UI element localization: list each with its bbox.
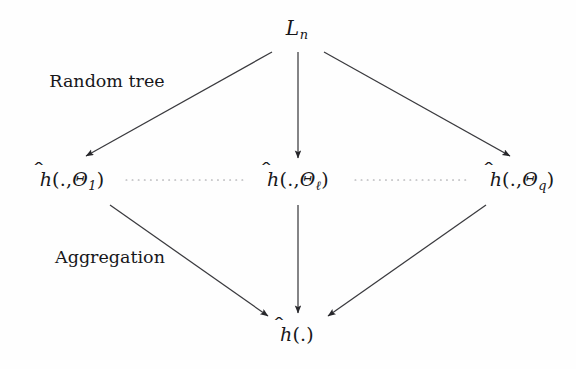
tree-1-subscript: 1 [88, 177, 97, 192]
node-tree-theta-q: ̂h(.,Θq) [490, 170, 555, 193]
label-aggregation: Aggregation [55, 249, 165, 267]
edge-root-to-tree-q [324, 52, 510, 156]
node-sample-set: Ln [286, 18, 308, 42]
tree-1-close-paren: ) [97, 168, 105, 190]
tree-ell-parameter: Θ [300, 168, 316, 190]
tree-q-open-paren: ( [502, 168, 510, 190]
tree-1-open-paren: ( [52, 168, 60, 190]
tree-q-hat-symbol: ̂h [490, 170, 502, 189]
label-random-tree: Random tree [49, 73, 164, 91]
tree-q-close-paren: ) [547, 168, 555, 190]
forest-hat-symbol: ̂h [280, 325, 292, 344]
tree-ell-open-paren: ( [280, 168, 288, 190]
node-tree-theta-ell: ̂h(.,Θℓ) [267, 170, 329, 193]
tree-1-parameter: Θ [72, 168, 88, 190]
tree-q-subscript: q [538, 177, 547, 192]
edge-root-to-tree-1 [86, 52, 272, 156]
sample-set-subscript: n [299, 27, 308, 42]
forest-open-paren: ( [292, 323, 300, 345]
tree-ell-hat-symbol: ̂h [267, 170, 279, 189]
node-tree-theta-1: ̂h(.,Θ1) [40, 170, 105, 193]
node-aggregated-estimate: ̂h(.) [280, 325, 314, 344]
tree-ell-close-paren: ) [321, 168, 329, 190]
edge-tree-q-to-forest [328, 205, 486, 316]
sample-set-symbol: L [286, 16, 300, 40]
tree-1-hat-symbol: ̂h [40, 170, 52, 189]
diagram-canvas: Ln ̂h(.,Θ1) ̂h(.,Θℓ) ̂h(.,Θq) ̂h(.) Rand… [0, 0, 576, 369]
tree-q-parameter: Θ [522, 168, 538, 190]
forest-close-paren: ) [306, 323, 314, 345]
